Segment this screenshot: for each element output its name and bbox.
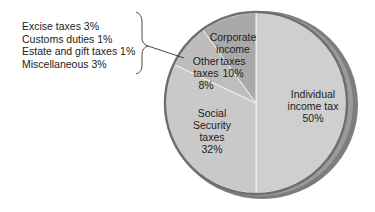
slice-label-social-security: Social Security taxes 32% — [180, 107, 244, 155]
other-taxes-breakdown: Excise taxes 3% Customs duties 1% Estate… — [22, 20, 135, 70]
legend-item-customs: Customs duties 1% — [22, 33, 135, 46]
legend-item-estate-gift: Estate and gift taxes 1% — [22, 45, 135, 58]
legend-item-excise: Excise taxes 3% — [22, 20, 135, 33]
slice-label-individual: Individual income tax 50% — [268, 88, 358, 124]
callout-line — [148, 46, 184, 58]
legend-bracket — [136, 12, 148, 74]
slice-label-corporate: Corporate income taxes 10% — [205, 31, 261, 79]
legend-item-miscellaneous: Miscellaneous 3% — [22, 58, 135, 71]
